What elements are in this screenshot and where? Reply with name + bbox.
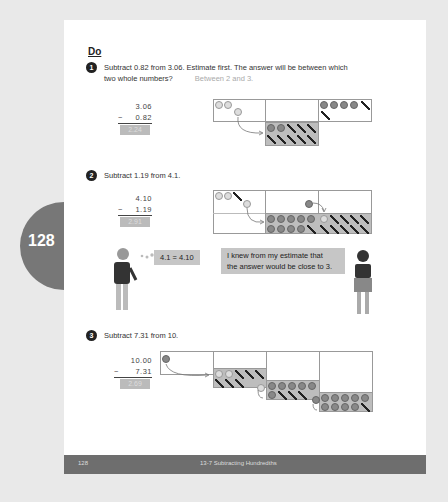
footer-bar: 128 13-7 Subtracting Hundredths	[64, 455, 426, 474]
regroup-arrows-icon	[0, 0, 448, 502]
footer-lesson-title: 13-7 Subtracting Hundredths	[200, 460, 277, 466]
footer-page-number: 128	[78, 460, 88, 466]
